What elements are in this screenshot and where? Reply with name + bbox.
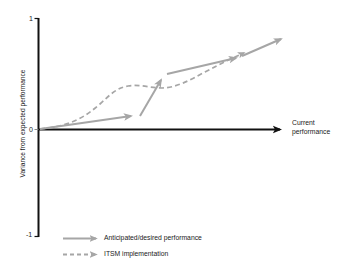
chart-figure: 1 0 -1 Variance from expected performanc… <box>0 0 345 267</box>
y-axis-tick-label-zero: 0 <box>29 126 33 133</box>
series-solid-segment-3 <box>167 58 236 74</box>
series-solid-segment-1 <box>40 116 131 129</box>
x-axis-title-line-1: Current <box>292 118 330 127</box>
y-axis-title: Variance from expected performance <box>19 54 26 194</box>
y-axis-tick-label-top: 1 <box>29 15 33 22</box>
legend-label-itsm-implementation: ITSM implementation <box>104 251 168 258</box>
y-axis-tick-label-bottom: -1 <box>26 231 32 238</box>
series-dashed-path <box>40 53 244 129</box>
x-axis-title-line-2: performance <box>292 127 330 136</box>
legend-label-anticipated-desired-performance: Anticipated/desired performance <box>104 235 202 242</box>
series-anticipated-desired-performance <box>40 39 281 129</box>
x-axis-title: Current performance <box>292 118 330 136</box>
series-solid-segment-4 <box>242 39 281 56</box>
series-itsm-implementation <box>40 53 244 129</box>
